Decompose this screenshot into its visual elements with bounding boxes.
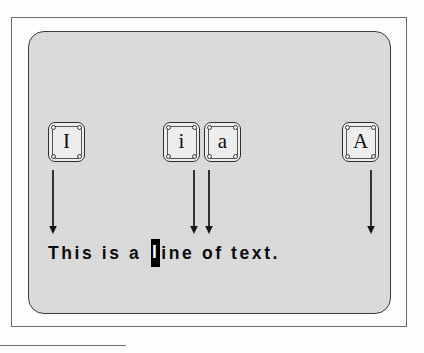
arrowhead-icon <box>367 226 375 234</box>
key-label: a <box>218 131 227 152</box>
screw-icon <box>51 154 56 159</box>
screw-icon <box>233 154 238 159</box>
key-label: i <box>179 131 185 152</box>
screw-icon <box>192 125 197 130</box>
arrowhead-icon <box>49 226 57 234</box>
key-label: I <box>63 131 70 152</box>
screw-icon <box>166 125 171 130</box>
screw-icon <box>207 125 212 130</box>
screw-icon <box>371 154 376 159</box>
screw-icon <box>166 154 171 159</box>
key-label: A <box>353 131 368 152</box>
screw-icon <box>233 125 238 130</box>
screw-icon <box>345 154 350 159</box>
screw-icon <box>345 125 350 130</box>
arrow-group <box>0 0 424 353</box>
figure-canvas: I i a A <box>0 0 424 353</box>
block-cursor: l <box>151 239 160 267</box>
arrowhead-icon <box>190 226 198 234</box>
sample-text-line: This is a l ine of text. <box>48 239 280 267</box>
screw-icon <box>192 154 197 159</box>
text-before-cursor: This is a <box>48 243 149 264</box>
text-after-cursor: ine of text. <box>161 243 280 264</box>
screw-icon <box>77 125 82 130</box>
bottom-rule-divider <box>0 345 126 346</box>
screw-icon <box>371 125 376 130</box>
screw-icon <box>207 154 212 159</box>
arrowhead-icon <box>205 226 213 234</box>
screw-icon <box>77 154 82 159</box>
screw-icon <box>51 125 56 130</box>
